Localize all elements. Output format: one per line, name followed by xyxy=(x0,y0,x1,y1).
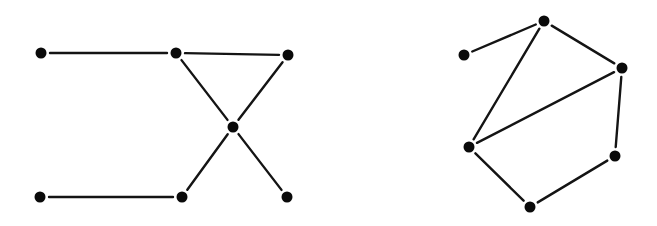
node-U xyxy=(525,202,536,213)
node-G xyxy=(282,192,293,203)
edge-B-D xyxy=(181,60,227,120)
node-R xyxy=(617,63,628,74)
node-S xyxy=(464,142,475,153)
edge-B-C xyxy=(185,53,279,55)
edge-C-D xyxy=(238,62,282,120)
right-graph xyxy=(459,16,628,213)
left-graph xyxy=(35,48,294,203)
edge-D-G xyxy=(238,134,281,190)
node-E xyxy=(35,192,46,203)
edge-R-S xyxy=(477,72,614,143)
edge-Q-R xyxy=(552,26,615,64)
edge-R-T xyxy=(616,77,622,147)
node-B xyxy=(171,48,182,59)
node-T xyxy=(610,151,621,162)
node-A xyxy=(36,48,47,59)
edge-T-U xyxy=(538,161,608,203)
edge-P-Q xyxy=(472,25,535,52)
graph-diagram xyxy=(0,0,657,226)
edge-S-U xyxy=(475,153,523,200)
edge-Q-S xyxy=(474,29,540,140)
node-Q xyxy=(539,16,550,27)
edge-D-F xyxy=(187,134,227,189)
node-D xyxy=(228,122,239,133)
node-F xyxy=(177,192,188,203)
node-P xyxy=(459,50,470,61)
node-C xyxy=(283,50,294,61)
